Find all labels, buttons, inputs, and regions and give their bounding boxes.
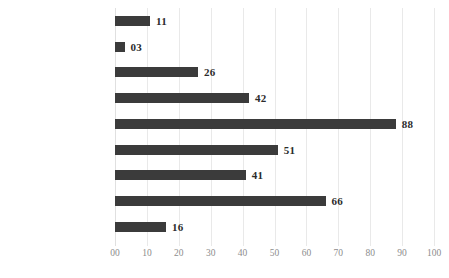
bar [115,170,246,180]
bar-row: Poland 51 [115,137,434,163]
bar-row: Germany 66 [115,188,434,214]
x-tick-label: 40 [238,248,248,258]
bar [115,145,278,155]
bar-value-label: 66 [332,195,343,207]
bar-value-label: 51 [284,144,295,156]
x-axis: 00 10 20 30 40 50 60 70 80 90 100 [115,248,434,268]
bar-row: Ukraine 26 [115,60,434,86]
bar-row: Spain 11 [115,8,434,34]
bar-row: Russian Federation 88 [115,111,434,137]
bar-row: Czech Republic 16 [115,214,434,240]
bar [115,16,150,26]
x-tick-label: 30 [206,248,216,258]
x-tick-label: 90 [397,248,407,258]
bar-value-label: 16 [172,221,183,233]
bar-chart: Spain 11 Uzbekistan 03 Ukraine 26 Turkey… [0,0,449,278]
bar-value-label: 42 [255,92,266,104]
x-tick-label: 20 [174,248,184,258]
x-tick-label: 00 [110,248,120,258]
bar [115,119,396,129]
x-tick-label: 100 [427,248,441,258]
gridline-100 [434,8,435,246]
x-tick-label: 60 [302,248,312,258]
bar-value-label: 11 [156,15,167,27]
bar-row: Uzbekistan 03 [115,34,434,60]
bar [115,222,166,232]
bar [115,93,249,103]
bar-row: Kazakhstan 41 [115,163,434,189]
x-tick-label: 70 [334,248,344,258]
bar-value-label: 88 [402,118,413,130]
bar [115,196,326,206]
bar-value-label: 41 [252,169,263,181]
plot-area: Spain 11 Uzbekistan 03 Ukraine 26 Turkey… [115,8,434,246]
bar-value-label: 26 [204,66,215,78]
x-tick-label: 10 [142,248,152,258]
bar [115,67,198,77]
bar [115,42,125,52]
x-tick-label: 50 [270,248,280,258]
bar-row: Turkey 42 [115,85,434,111]
x-tick-label: 80 [365,248,375,258]
bar-value-label: 03 [131,41,142,53]
